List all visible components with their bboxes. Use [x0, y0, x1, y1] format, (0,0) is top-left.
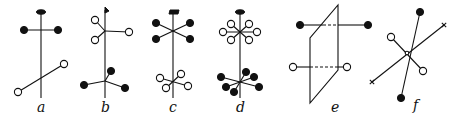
cap-icon — [37, 10, 46, 14]
open-atom-icon — [125, 28, 132, 35]
open-atom-icon — [91, 36, 98, 43]
filled-atom-icon — [186, 19, 193, 26]
filled-atom-icon — [186, 35, 193, 42]
open-atom-icon — [14, 88, 21, 95]
open-atom-icon — [253, 28, 260, 35]
open-atom-icon — [156, 74, 163, 81]
filled-atom-icon — [255, 83, 262, 90]
filled-atom-icon — [217, 73, 224, 80]
bond-line — [401, 12, 420, 98]
panel-d — [217, 10, 262, 98]
panel-d-label: d — [236, 99, 245, 115]
figure-canvas: a b c d e f — [0, 0, 462, 120]
filled-atom-icon — [121, 84, 128, 91]
panel-b — [80, 7, 132, 98]
open-atom-icon — [387, 33, 394, 40]
cap-icon — [169, 10, 179, 14]
open-atom-icon — [245, 20, 252, 27]
filled-atom-icon — [152, 19, 159, 26]
panel-f — [370, 8, 446, 101]
panel-a-label: a — [37, 99, 45, 115]
open-atom-icon — [419, 67, 426, 74]
open-atom-icon — [177, 70, 184, 77]
filled-atom-icon — [80, 81, 87, 88]
open-atom-icon — [227, 36, 234, 43]
filled-atom-icon — [54, 26, 61, 33]
panel-c-label: c — [169, 99, 177, 115]
open-atom-icon — [91, 16, 98, 23]
open-atom-icon — [245, 36, 252, 43]
open-atom-icon — [289, 63, 296, 70]
open-atom-icon — [227, 20, 234, 27]
filled-atom-icon — [296, 21, 303, 28]
cap-icon — [236, 10, 245, 14]
open-atom-icon — [184, 82, 191, 89]
open-atom-icon — [219, 28, 226, 35]
panel-f-label: f — [412, 97, 421, 113]
filled-atom-icon — [242, 68, 249, 75]
panel-e-label: e — [331, 99, 339, 115]
filled-atom-icon — [222, 83, 229, 90]
filled-atom-icon — [152, 35, 159, 42]
panel-a — [14, 10, 67, 98]
flag-icon — [105, 7, 109, 13]
open-atom-icon — [162, 84, 169, 91]
filled-atom-icon — [416, 8, 423, 15]
open-atom-icon — [405, 51, 409, 55]
filled-atom-icon — [364, 21, 371, 28]
filled-atom-icon — [250, 73, 257, 80]
plane-shape — [310, 5, 338, 103]
filled-atom-icon — [107, 67, 114, 74]
panel-b-label: b — [101, 99, 110, 115]
filled-atom-icon — [20, 26, 27, 33]
panel-c — [152, 10, 193, 98]
panel-e — [289, 5, 371, 103]
filled-atom-icon — [397, 94, 404, 101]
open-atom-icon — [343, 63, 350, 70]
filled-atom-icon — [230, 88, 237, 95]
open-atom-icon — [60, 60, 67, 67]
